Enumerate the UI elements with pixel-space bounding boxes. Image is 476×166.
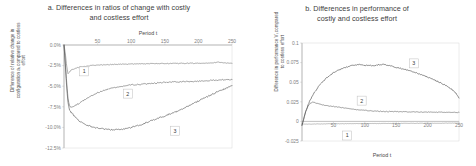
y-tick-label: -0.025 bbox=[285, 139, 299, 144]
chart-b-plot: 0.10.0750.050.0250-0.0255010015020025032… bbox=[238, 0, 476, 166]
figure-container: a. Differences in ratios of change with … bbox=[0, 0, 476, 166]
chart-a-plot: 0.0%-2.5%-5.0%-7.5%-10.0%-12.5%501001502… bbox=[0, 0, 238, 166]
series-label-2: 2 bbox=[123, 89, 132, 98]
svg-text:1: 1 bbox=[83, 68, 86, 74]
series-label-3: 3 bbox=[170, 126, 179, 135]
y-tick-label: -2.5% bbox=[48, 63, 61, 68]
y-tick-label: -5.0% bbox=[48, 84, 61, 89]
y-tick-label: 0.0% bbox=[50, 43, 62, 48]
series-label-1: 1 bbox=[80, 67, 89, 76]
x-tick-label: 250 bbox=[228, 39, 236, 44]
x-tick-label: 200 bbox=[424, 123, 432, 128]
svg-text:2: 2 bbox=[360, 98, 363, 104]
x-tick-label: 150 bbox=[161, 39, 169, 44]
x-tick-label: 200 bbox=[194, 39, 202, 44]
series-label-3: 3 bbox=[409, 59, 418, 68]
y-tick-label: -7.5% bbox=[48, 105, 61, 110]
svg-text:1: 1 bbox=[346, 132, 349, 138]
x-tick-label: 50 bbox=[95, 39, 101, 44]
series-line-2 bbox=[302, 102, 459, 125]
series-line-1 bbox=[64, 45, 232, 74]
y-tick-label: 0.025 bbox=[287, 100, 300, 105]
svg-text:3: 3 bbox=[412, 60, 415, 66]
series-line-1 bbox=[302, 123, 459, 124]
svg-text:2: 2 bbox=[126, 91, 129, 97]
x-tick-label: 250 bbox=[455, 123, 463, 128]
svg-text:3: 3 bbox=[173, 128, 176, 134]
y-tick-label: 0.1 bbox=[292, 41, 299, 46]
y-tick-label: 0 bbox=[296, 119, 299, 124]
y-tick-label: -12.5% bbox=[45, 146, 61, 151]
chart-panel-b: b. Differences in performance of costly … bbox=[238, 0, 476, 166]
y-tick-label: 0.05 bbox=[289, 80, 299, 85]
series-line-3 bbox=[302, 64, 459, 125]
series-label-2: 2 bbox=[357, 96, 366, 105]
x-tick-label: 100 bbox=[127, 39, 135, 44]
y-tick-label: 0.075 bbox=[287, 60, 300, 65]
chart-panel-a: a. Differences in ratios of change with … bbox=[0, 0, 238, 166]
series-label-1: 1 bbox=[343, 131, 352, 140]
series-line-3 bbox=[64, 45, 232, 130]
series-line-2 bbox=[64, 45, 232, 107]
y-tick-label: -10.0% bbox=[45, 125, 61, 130]
